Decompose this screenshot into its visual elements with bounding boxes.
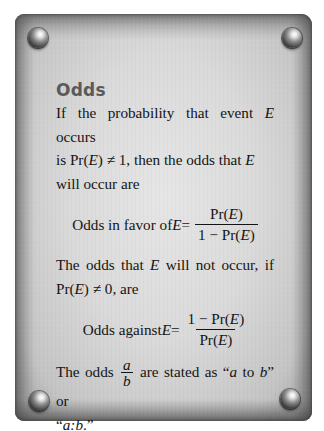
variable: E xyxy=(265,104,274,121)
paragraph-not-occur: The odds that E will not occur, if Pr(E)… xyxy=(56,253,274,300)
variable: E xyxy=(162,318,171,342)
variable: E xyxy=(89,151,98,168)
fraction-a-over-b: ab xyxy=(121,357,133,388)
denominator: 1 − Pr(E) xyxy=(195,224,258,245)
plate-edge-shading xyxy=(292,14,312,421)
text: ) ≠ 0, are xyxy=(84,280,139,297)
equals-sign: = xyxy=(182,213,191,237)
numerator: 1 − Pr(E) xyxy=(185,309,248,329)
screw-icon xyxy=(28,28,48,48)
formula-lhs: Odds against xyxy=(83,318,162,342)
equals-sign: = xyxy=(171,318,180,342)
plate-edge-shading xyxy=(15,14,35,421)
text: will occur are xyxy=(56,175,140,192)
formula-odds-in-favor: Odds in favor of E = Pr(E) 1 − Pr(E) xyxy=(56,204,274,245)
formula-odds-against: Odds against E = 1 − Pr(E) Pr(E) xyxy=(56,309,274,350)
text: is Pr( xyxy=(56,151,89,168)
text-line: “a:b.” xyxy=(56,416,94,431)
screw-icon xyxy=(280,389,300,409)
text: If the probability that event xyxy=(56,104,265,121)
plate-edge-shading xyxy=(15,14,312,40)
text-line: The odds ab are stated as “a to b” or xyxy=(56,358,274,413)
paragraph-probability: If the probability that event E occurs i… xyxy=(56,101,274,195)
screw-icon xyxy=(282,28,302,48)
screw-icon xyxy=(29,391,49,411)
text-line: The odds that E will not occur, if xyxy=(56,253,274,277)
card-title: Odds xyxy=(56,80,274,100)
card-content: Odds If the probability that event E occ… xyxy=(56,80,274,431)
variable: E xyxy=(75,280,84,297)
fraction: Pr(E) 1 − Pr(E) xyxy=(195,204,258,245)
denominator: Pr(E) xyxy=(196,329,235,350)
formula-lhs: Odds in favor of xyxy=(72,213,172,237)
text: Pr( xyxy=(56,280,75,297)
text: occurs xyxy=(56,128,96,145)
numerator: Pr(E) xyxy=(207,204,246,224)
variable: E xyxy=(245,151,254,168)
paragraph-odds-notation: The odds ab are stated as “a to b” or “a… xyxy=(56,358,274,431)
variable: E xyxy=(172,213,181,237)
text: ) ≠ 1, then the odds that xyxy=(98,151,246,168)
fraction: 1 − Pr(E) Pr(E) xyxy=(185,309,248,350)
